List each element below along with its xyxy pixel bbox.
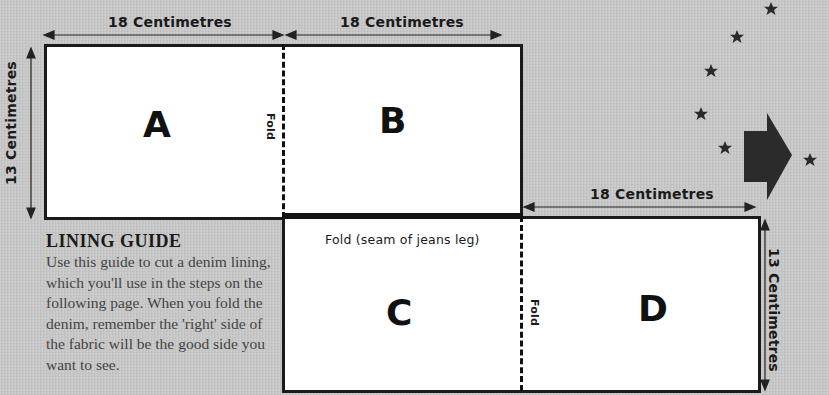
star-icon (718, 141, 732, 154)
star-icon (730, 30, 744, 43)
star-icon (694, 107, 708, 120)
star-icon (764, 2, 778, 15)
right-arrow-icon (744, 113, 792, 200)
star-icon (803, 153, 817, 166)
star-icon (704, 64, 718, 77)
